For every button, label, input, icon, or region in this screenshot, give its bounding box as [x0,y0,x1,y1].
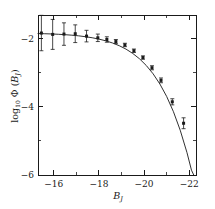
x-axis-minor-ticks [76,15,166,175]
schechter-fit-curve [38,34,194,175]
data-point-markers [40,32,185,125]
data-error-bars [39,15,185,128]
y-axis-major-ticks [38,39,196,175]
y-axis-label: log10 Φ (BJ) [9,69,22,122]
svg-text:log10 Φ (BJ): log10 Φ (BJ) [9,69,22,122]
x-tick-label: −16 [44,179,63,189]
data-point [85,35,88,38]
x-axis-label: BJ [112,190,123,203]
data-point [62,33,65,36]
data-point [160,79,163,82]
data-point [171,100,174,103]
y-axis-tick-labels: −2−4−6 [21,34,35,180]
data-point [141,56,144,59]
data-point [150,66,153,69]
y-tick-label: −4 [21,102,35,112]
data-point [105,38,108,41]
plot-frame [38,15,196,175]
svg-text:BJ: BJ [112,190,123,203]
data-point [182,122,185,125]
data-point [114,40,117,43]
luminosity-function-plot: −16−18−20−22 −2−4−6 BJ log10 Φ (BJ) [0,0,215,209]
y-tick-label: −2 [21,34,34,44]
x-tick-label: −20 [135,179,154,189]
chart-figure: −16−18−20−22 −2−4−6 BJ log10 Φ (BJ) [0,0,215,209]
y-axis-minor-ticks [38,73,196,141]
x-axis-major-ticks [54,15,189,175]
data-point [123,43,126,46]
data-point [132,49,135,52]
data-point [96,36,99,39]
data-point [40,32,43,35]
y-tick-label: −6 [21,170,35,180]
x-axis-tick-labels: −16−18−20−22 [44,179,198,189]
data-point [51,33,54,36]
data-point [74,32,77,35]
x-tick-label: −22 [180,179,199,189]
x-tick-label: −18 [89,179,108,189]
